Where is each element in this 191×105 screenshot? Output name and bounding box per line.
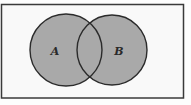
venn-diagram: A B <box>0 0 191 105</box>
set-b-label: B <box>113 45 123 58</box>
set-a-label: A <box>50 45 60 58</box>
